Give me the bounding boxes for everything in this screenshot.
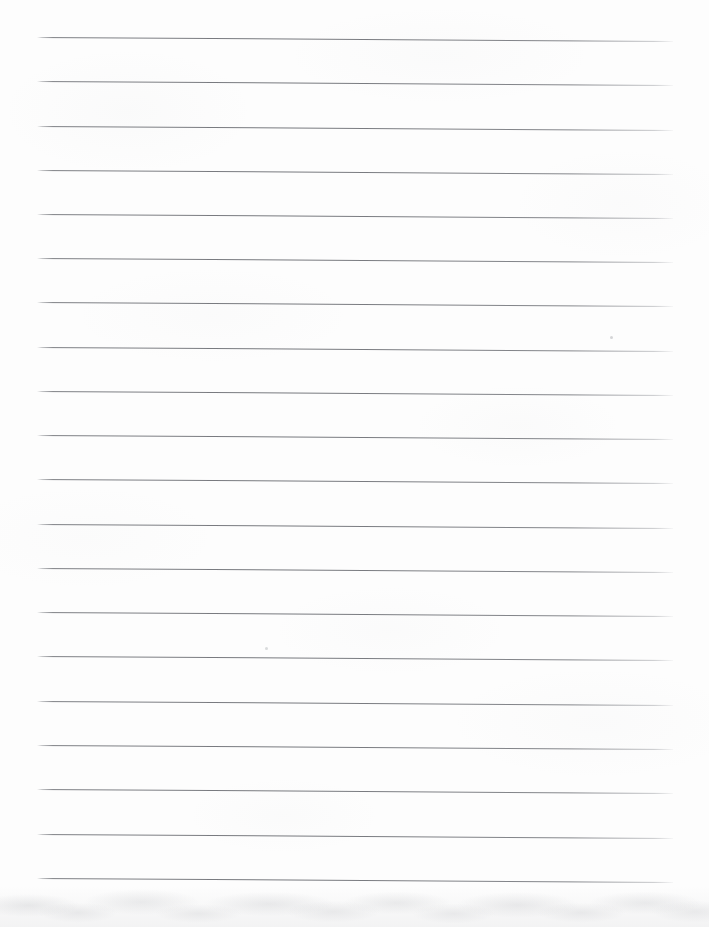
ruled-line [37, 612, 673, 617]
ruled-line [37, 170, 673, 175]
ruled-line [37, 745, 673, 750]
ruled-line [37, 81, 673, 86]
ruled-line [37, 391, 673, 396]
ruled-line [37, 37, 673, 42]
speck-lower-left [265, 647, 268, 650]
ruled-line [37, 435, 673, 440]
ruled-line [37, 479, 673, 484]
ruled-line [37, 568, 673, 573]
ruled-line [37, 302, 673, 307]
ruled-line [37, 258, 673, 263]
ruled-line [37, 789, 673, 794]
ruled-line [37, 656, 673, 661]
ruled-line [37, 524, 673, 529]
ruled-line [37, 347, 673, 352]
ruled-line [37, 878, 673, 883]
lined-paper-page [0, 0, 709, 927]
scan-shadow-band [0, 879, 709, 927]
ruled-line [37, 701, 673, 706]
ruled-line [37, 214, 673, 219]
ruled-line [37, 126, 673, 131]
speck-upper-right [610, 336, 613, 339]
ruled-line [37, 834, 673, 839]
